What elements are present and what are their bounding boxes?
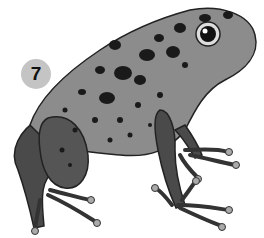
frog-illustration bbox=[0, 0, 264, 238]
